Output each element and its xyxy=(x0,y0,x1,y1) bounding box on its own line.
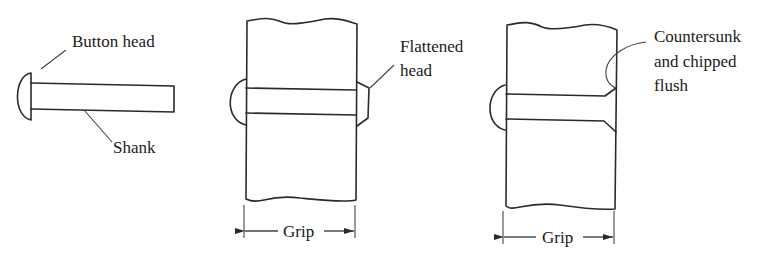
flattened-head-shape xyxy=(357,82,369,126)
button-head-shape xyxy=(230,79,246,125)
panel-loose-rivet: Button head Shank xyxy=(17,32,174,157)
flattened-head-label-line1: Flattened xyxy=(400,37,464,56)
panel-flattened-rivet: Flattened head Grip xyxy=(230,18,464,241)
shank-shape xyxy=(31,83,174,112)
countersunk-label-line2: and chipped xyxy=(654,52,737,71)
button-head-leader xyxy=(41,50,66,69)
panel-countersunk-rivet: Countersunk and chipped flush Grip xyxy=(490,23,741,247)
shank-label: Shank xyxy=(113,138,156,157)
grip-label: Grip xyxy=(283,222,314,241)
button-head-label: Button head xyxy=(72,32,155,51)
flattened-head-leader xyxy=(370,65,394,88)
countersunk-label-line3: flush xyxy=(654,76,689,95)
plate-outline xyxy=(506,23,617,210)
rivet-diagram: Button head Shank Flattened head Grip Co… xyxy=(0,0,765,258)
plate-outline xyxy=(246,18,357,201)
button-head-shape xyxy=(490,85,505,130)
flattened-head-label-line2: head xyxy=(400,61,433,80)
button-head-shape xyxy=(17,73,31,120)
shank-leader xyxy=(84,110,112,142)
countersunk-label-line1: Countersunk xyxy=(654,27,741,46)
grip-label: Grip xyxy=(542,228,573,247)
